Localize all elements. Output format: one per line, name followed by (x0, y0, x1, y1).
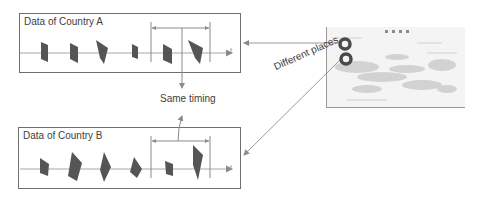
country-a-axis-label: t (230, 46, 232, 55)
country-b-axis-label: t (230, 163, 232, 172)
same-timing-label: Same timing (160, 93, 216, 104)
location-marker-a (340, 39, 350, 49)
diagram-layer (0, 0, 480, 202)
country-b-timeline (20, 136, 232, 182)
location-marker-b (341, 54, 351, 64)
same-timing-arrows (178, 28, 182, 141)
country-a-timeline (20, 22, 232, 64)
